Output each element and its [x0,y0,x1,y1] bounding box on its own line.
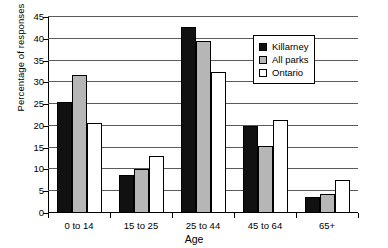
x-axis-line [48,212,358,213]
bar [119,175,134,213]
legend-item: All parks [259,53,308,66]
x-axis-tick-mark [234,213,235,218]
legend: KillarneyAll parksOntario [253,35,315,84]
y-axis-tick-label: 15 [14,143,44,153]
bar [57,102,72,213]
legend-swatch [259,43,267,51]
y-axis-tick-label: 40 [14,34,44,44]
y-axis-tick-label: 35 [14,56,44,66]
y-axis-tick-label: 0 [14,208,44,218]
x-axis-tick-mark [358,213,359,218]
y-axis-tick-label: 45 [14,12,44,22]
bar [181,27,196,213]
bar [87,123,102,213]
legend-item: Ontario [259,66,308,79]
y-axis-tick-label: 30 [14,77,44,87]
x-axis-tick-mark [296,213,297,218]
x-axis-tick-label: 65+ [287,221,367,231]
bar [149,156,164,213]
bar [320,194,335,213]
bar-group [181,17,226,213]
legend-item: Killarney [259,40,308,53]
bar [72,75,87,214]
bar [273,120,288,213]
bar [335,180,350,213]
bar-group [57,17,102,213]
bar [258,146,273,213]
legend-label: Ontario [272,68,303,78]
y-axis-tick-label: 5 [14,186,44,196]
y-axis-tick-label: 20 [14,121,44,131]
x-axis-title: Age [0,233,388,245]
bar [211,72,226,213]
bar [196,41,211,213]
bar-chart: Percentage of responses 0510152025303540… [0,0,388,248]
bar [134,169,149,213]
legend-label: All parks [272,55,308,65]
bar [305,197,320,213]
legend-swatch [259,56,267,64]
bar [243,126,258,213]
bar-group [119,17,164,213]
y-axis-tick-label: 10 [14,164,44,174]
x-axis-tick-mark [172,213,173,218]
x-axis-tick-mark [48,213,49,218]
x-axis-tick-mark [110,213,111,218]
legend-swatch [259,69,267,77]
y-axis-tick-label: 25 [14,99,44,109]
legend-label: Killarney [272,42,308,52]
